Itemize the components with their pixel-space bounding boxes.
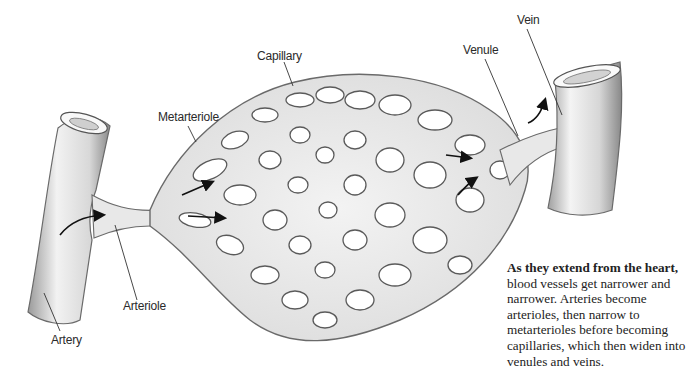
- label-artery: Artery: [51, 333, 82, 347]
- label-metarteriole: Metarteriole: [158, 110, 219, 124]
- label-arteriole: Arteriole: [123, 299, 166, 313]
- label-capillary: Capillary: [257, 49, 302, 63]
- label-vein: Vein: [517, 13, 540, 27]
- caption-body: blood vessels get narrower and narrower.…: [507, 276, 685, 369]
- caption-lead: As they extend from the heart,: [507, 260, 678, 275]
- caption: As they extend from the heart, blood ves…: [507, 260, 687, 369]
- label-venule: Venule: [463, 43, 499, 57]
- vein: [548, 60, 622, 215]
